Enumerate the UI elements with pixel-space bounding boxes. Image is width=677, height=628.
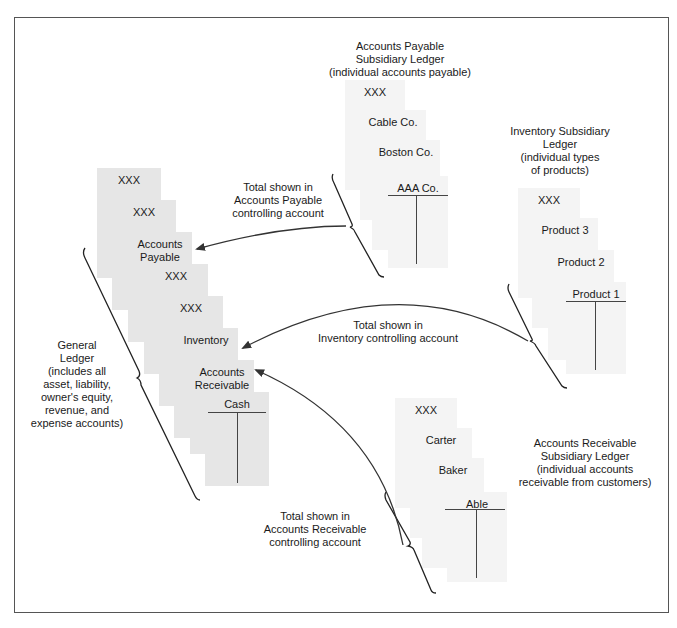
card-label: Product 3	[541, 224, 588, 236]
inventory-ledger-title: Inventory Subsidiary Ledger (individual …	[500, 125, 620, 177]
ap-card-aaa-co: AAA Co.	[388, 176, 448, 268]
ap-arrow-label: Total shown in Accounts Payable controll…	[228, 181, 328, 220]
inventory-arrow-label: Total shown in Inventory controlling acc…	[318, 319, 458, 345]
t-account-top	[566, 301, 626, 302]
caption-line: General	[22, 339, 132, 352]
arrow-label-line: controlling account	[228, 207, 328, 220]
t-account-vertical	[476, 509, 477, 578]
title-line: Ledger	[500, 138, 620, 151]
card-label: Boston Co.	[379, 146, 433, 158]
card-label: XXX	[133, 206, 155, 218]
gl-card-cash: Cash	[205, 392, 269, 486]
title-line: Subsidiary Ledger	[320, 53, 480, 66]
card-label: Accounts Receivable	[192, 366, 252, 392]
t-account-vertical	[595, 301, 596, 370]
t-account-vertical	[416, 195, 417, 264]
arrow-label-line: controlling account	[255, 536, 375, 549]
card-label: XXX	[415, 404, 437, 416]
title-line: (individual types	[500, 151, 620, 164]
card-label: Cash	[224, 398, 250, 410]
caption-line: asset, liability,	[22, 378, 132, 391]
arrow-label-line: Total shown in	[255, 510, 375, 523]
card-label: XXX	[165, 270, 187, 282]
caption-line: expense accounts)	[22, 417, 132, 430]
ap-ledger-title: Accounts Payable Subsidiary Ledger (indi…	[320, 40, 480, 79]
inv-card-product-1: Product 1	[566, 282, 626, 374]
caption-line: owner's equity,	[22, 391, 132, 404]
card-label: Baker	[439, 464, 468, 476]
general-ledger-caption: General Ledger (includes all asset, liab…	[22, 339, 132, 430]
t-account-vertical	[237, 412, 238, 483]
card-label: XXX	[118, 174, 140, 186]
caption-line: Ledger	[22, 352, 132, 365]
arrow-label-line: Accounts Receivable	[255, 523, 375, 536]
arrow-label-line: Inventory controlling account	[318, 332, 458, 345]
card-label: XXX	[180, 302, 202, 314]
title-line: Subsidiary Ledger	[510, 450, 660, 463]
title-line: (individual accounts payable)	[320, 66, 480, 79]
arrow-label-line: Accounts Payable	[228, 194, 328, 207]
title-line: Accounts Payable	[320, 40, 480, 53]
ar-card-able: Able	[447, 492, 507, 582]
card-label: Accounts Payable	[135, 238, 185, 264]
caption-line: (includes all	[22, 365, 132, 378]
caption-line: revenue, and	[22, 404, 132, 417]
card-label: Cable Co.	[369, 116, 418, 128]
title-line: (individual accounts	[510, 463, 660, 476]
title-line: Accounts Receivable	[510, 437, 660, 450]
t-account-top	[388, 195, 448, 196]
card-label: XXX	[538, 194, 560, 206]
title-line: of products)	[500, 164, 620, 177]
title-line: receivable from customers)	[510, 476, 660, 489]
arrow-label-line: Total shown in	[318, 319, 458, 332]
title-line: Inventory Subsidiary	[500, 125, 620, 138]
card-label: Product 2	[557, 256, 604, 268]
ar-ledger-title: Accounts Receivable Subsidiary Ledger (i…	[510, 437, 660, 489]
card-label: Product 1	[572, 288, 619, 300]
card-label: Inventory	[183, 334, 228, 346]
card-label: XXX	[364, 86, 386, 98]
card-label: AAA Co.	[397, 182, 439, 194]
card-label: Carter	[426, 434, 457, 446]
ar-arrow-label: Total shown in Accounts Receivable contr…	[255, 510, 375, 549]
arrow-label-line: Total shown in	[228, 181, 328, 194]
